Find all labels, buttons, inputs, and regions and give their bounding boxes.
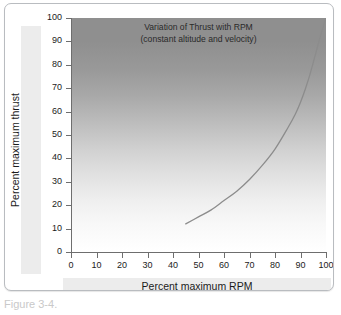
x-tick-label: 20 xyxy=(110,260,134,270)
x-tick-label: 10 xyxy=(85,260,109,270)
chart-title: Variation of Thrust with RPM (constant a… xyxy=(71,22,326,45)
y-tick-label: 60 xyxy=(36,106,62,116)
y-tick-label: 70 xyxy=(36,82,62,92)
y-tick-mark xyxy=(66,205,71,206)
y-tick-label: 10 xyxy=(36,223,62,233)
thrust-curve-svg xyxy=(71,18,326,252)
y-axis-label-rotation-wrapper: Percent maximum thrust xyxy=(5,26,25,274)
y-tick-label: 80 xyxy=(36,59,62,69)
y-tick-label: 0 xyxy=(36,246,62,256)
x-tick-label: 100 xyxy=(314,260,334,270)
y-tick-mark xyxy=(66,41,71,42)
y-tick-mark xyxy=(66,65,71,66)
y-tick-mark xyxy=(66,229,71,230)
x-tick-mark xyxy=(250,253,251,258)
x-tick-mark xyxy=(199,253,200,258)
x-tick-label: 90 xyxy=(289,260,313,270)
y-tick-label: 90 xyxy=(36,35,62,45)
plot-area xyxy=(71,18,326,252)
y-axis-line xyxy=(71,18,72,253)
x-tick-label: 70 xyxy=(238,260,262,270)
x-tick-mark xyxy=(224,253,225,258)
x-tick-mark xyxy=(122,253,123,258)
y-tick-label: 50 xyxy=(36,129,62,139)
x-tick-mark xyxy=(326,253,327,258)
y-tick-label: 40 xyxy=(36,152,62,162)
y-axis-label: Percent maximum thrust xyxy=(5,26,25,274)
x-tick-mark xyxy=(71,253,72,258)
x-tick-label: 30 xyxy=(136,260,160,270)
x-tick-label: 60 xyxy=(212,260,236,270)
y-tick-mark xyxy=(66,158,71,159)
y-tick-label: 100 xyxy=(36,12,62,22)
y-tick-label: 20 xyxy=(36,199,62,209)
x-tick-mark xyxy=(148,253,149,258)
x-tick-mark xyxy=(97,253,98,258)
y-tick-label: 30 xyxy=(36,176,62,186)
y-tick-mark xyxy=(66,182,71,183)
x-tick-mark xyxy=(173,253,174,258)
series-line-thrust-vs-rpm xyxy=(186,18,326,224)
figure-frame: Percent maximum thrust Percent maximum R… xyxy=(4,3,334,291)
x-tick-label: 80 xyxy=(263,260,287,270)
chart-subtitle: (constant altitude and velocity) xyxy=(71,34,326,46)
x-tick-mark xyxy=(275,253,276,258)
figure-caption: Figure 3-4. xyxy=(4,298,124,312)
x-tick-label: 50 xyxy=(187,260,211,270)
y-tick-mark xyxy=(66,135,71,136)
x-tick-mark xyxy=(301,253,302,258)
y-tick-mark xyxy=(66,112,71,113)
y-tick-mark xyxy=(66,88,71,89)
x-tick-label: 0 xyxy=(59,260,83,270)
y-tick-mark xyxy=(66,18,71,19)
x-axis-label: Percent maximum RPM xyxy=(63,278,331,291)
x-tick-label: 40 xyxy=(161,260,185,270)
chart-title-line1: Variation of Thrust with RPM xyxy=(144,22,253,32)
